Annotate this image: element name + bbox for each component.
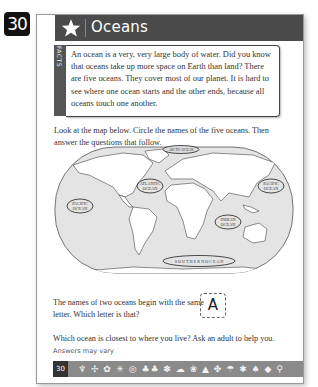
atlantic-ocean-text-2: OCEAN bbox=[143, 186, 157, 191]
indian-ocean-text-2: OCEAN bbox=[221, 222, 235, 227]
question-2: Which ocean is closest to where you live… bbox=[53, 333, 293, 357]
decorative-icons-strip: ♆ ✢ ✿ ☀ ◎ ♣♣ ✽ ☁ ❀ ▲ ✤ ☂ ✱ ♠ ◆ ⚲ bbox=[78, 362, 284, 376]
worksheet-page: Oceans FACTS An ocean is a very, very la… bbox=[36, 14, 304, 384]
title-separator bbox=[85, 19, 86, 37]
footer-page-number: 30 bbox=[53, 361, 68, 377]
facts-tab-label: FACTS bbox=[56, 42, 63, 72]
arctic-ocean-text: ARCTIC OCEAN bbox=[169, 148, 195, 152]
page-number-badge: 30 bbox=[4, 12, 30, 36]
title-bar: Oceans bbox=[55, 15, 303, 41]
question-2-text: Which ocean is closest to where you live… bbox=[53, 334, 274, 343]
answer-box[interactable]: A bbox=[200, 293, 226, 318]
footer-bar: 30 ♆ ✢ ✿ ☀ ◎ ♣♣ ✽ ☁ ❀ ▲ ✤ ☂ ✱ ♠ ◆ ⚲ bbox=[53, 361, 303, 377]
southern-ocean-text: S O U T H E R N O C E A N bbox=[175, 259, 224, 264]
world-map: ARCTIC OCEAN ATLANTIC OCEAN PACIFIC OCEA… bbox=[53, 145, 295, 275]
pacific-west-text-2: OCEAN bbox=[73, 206, 87, 211]
answer-note: Answers may vary bbox=[53, 347, 114, 355]
pacific-east-text-2: OCEAN bbox=[264, 186, 278, 191]
facts-box: An ocean is a very, very large body of w… bbox=[66, 45, 280, 117]
question-1: The names of two oceans begin with the s… bbox=[53, 297, 213, 320]
star-icon bbox=[61, 18, 81, 38]
facts-tab: FACTS bbox=[54, 45, 66, 116]
page-title: Oceans bbox=[91, 18, 148, 36]
facts-text: An ocean is a very, very large body of w… bbox=[71, 49, 275, 110]
